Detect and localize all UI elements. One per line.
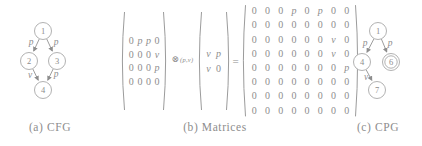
matrix-cell: 0: [274, 47, 287, 61]
matrix-row: 00000000: [248, 75, 354, 89]
caption-b: (b) Matrices: [156, 121, 274, 133]
matrix-cell: 0: [327, 4, 340, 18]
matrix-cell: 0: [261, 104, 274, 118]
matrix-cell: 0: [261, 18, 274, 32]
matrix-cell: p: [214, 46, 224, 61]
matrix-cfg-adjacency: 0pp0000v000p0000: [120, 11, 168, 111]
matrix-cell: 0: [261, 47, 274, 61]
matrix-cell: 0: [127, 75, 136, 89]
matrix-cell: 0: [274, 104, 287, 118]
matrix-row: 00000000: [248, 104, 354, 118]
matrix-cell: p: [144, 34, 153, 48]
matrix-cell: 0: [274, 89, 287, 103]
matrix-cells: 0pp0000v000p0000: [127, 11, 161, 111]
matrix-cell: 0: [274, 4, 287, 18]
matrix-cell: 0: [327, 18, 340, 32]
right-paren: [226, 11, 231, 111]
left-paren: [241, 4, 246, 118]
cpg-edge-1-6: [381, 39, 386, 52]
matrix-cell: 0: [127, 48, 136, 62]
matrix-row: 000v: [127, 48, 161, 62]
matrix-cell: v: [327, 33, 340, 47]
matrix-row: 0000000p: [248, 61, 354, 75]
matrix-cell: 0: [300, 61, 313, 75]
matrix-cell: 0: [261, 4, 274, 18]
cfg-graph: 1 2 3 4 p p v p: [12, 14, 84, 106]
equals-sign: =: [233, 55, 239, 67]
matrix-cell: v: [204, 61, 214, 76]
cfg-node-1-label: 1: [41, 26, 45, 36]
matrix-row: v0: [204, 61, 224, 76]
matrix-cell: 0: [144, 48, 153, 62]
matrix-cell: v: [204, 46, 214, 61]
matrix-cell: 0: [300, 47, 313, 61]
matrix-cell: 0: [261, 75, 274, 89]
matrix-cell: v: [153, 48, 162, 62]
matrix-cell: 0: [300, 18, 313, 32]
cfg-edge-2-4-label: v: [28, 70, 33, 80]
matrix-cell: 0: [287, 89, 300, 103]
matrix-row: 0000: [127, 75, 161, 89]
cfg-edge-1-3: [47, 39, 53, 51]
matrix-row: 000000v0: [248, 47, 354, 61]
matrix-cell: 0: [287, 33, 300, 47]
matrix-cell: 0: [274, 18, 287, 32]
matrix-label-pair: vpv0: [197, 11, 231, 111]
cfg-edge-3-4-label: p: [53, 69, 59, 79]
cpg-node-6-label: 6: [389, 57, 393, 67]
cfg-edge-2-4: [33, 69, 39, 80]
matrix-cell: 0: [261, 61, 274, 75]
matrix-cell: 0: [287, 18, 300, 32]
left-paren: [197, 11, 202, 111]
matrix-cell: 0: [314, 75, 327, 89]
matrix-equation: 0pp0000v000p0000 ⊗ (p,v) vpv0 = 000p0p00…: [119, 0, 361, 122]
matrix-cell: 0: [248, 4, 261, 18]
cpg-node-1-label: 1: [376, 26, 380, 36]
cfg-node-3-label: 3: [55, 56, 59, 66]
matrix-cell: 0: [248, 18, 261, 32]
matrix-cell: 0: [214, 61, 224, 76]
matrix-row: 000000v0: [248, 33, 354, 47]
matrix-cell: 0: [136, 48, 145, 62]
matrix-cell: 0: [136, 61, 145, 75]
cfg-edge-1-3-label: p: [53, 37, 59, 47]
matrix-row: 00000000: [248, 89, 354, 103]
matrix-cell: 0: [314, 104, 327, 118]
matrix-cell: 0: [248, 89, 261, 103]
matrix-cell: 0: [327, 89, 340, 103]
matrix-row: vp: [204, 46, 224, 61]
matrix-row: 000p: [127, 61, 161, 75]
cfg-edge-1-2: [34, 39, 40, 51]
matrix-cell: 0: [136, 75, 145, 89]
matrix-cell: 0: [327, 61, 340, 75]
matrix-row: 000p0p00: [248, 4, 354, 18]
matrix-cell: 0: [300, 33, 313, 47]
matrix-cell: 0: [127, 34, 136, 48]
caption-c: (c) CPG: [341, 121, 415, 133]
matrix-cell: 0: [261, 33, 274, 47]
right-paren: [163, 11, 168, 111]
matrix-cell: p: [136, 34, 145, 48]
matrix-cpg-result: 000p0p0000000000000000v0000000v00000000p…: [241, 4, 361, 118]
cpg-edge-1-4-label: p: [362, 38, 368, 48]
cfg-edge-3-4: [48, 69, 54, 80]
matrix-cell: 0: [248, 61, 261, 75]
matrix-cell: 0: [248, 33, 261, 47]
matrix-cell: 0: [287, 61, 300, 75]
matrix-cell: 0: [300, 4, 313, 18]
matrix-cell: 0: [144, 75, 153, 89]
matrix-cell: 0: [314, 89, 327, 103]
matrix-cell: 0: [287, 47, 300, 61]
matrix-cell: p: [287, 4, 300, 18]
caption-a: (a) CFG: [12, 121, 88, 133]
matrix-cell: 0: [261, 89, 274, 103]
matrix-cell: 0: [327, 75, 340, 89]
matrix-cell: 0: [153, 75, 162, 89]
matrix-cell: 0: [287, 104, 300, 118]
matrix-cells: 000p0p0000000000000000v0000000v00000000p…: [248, 4, 354, 118]
matrix-cell: 0: [314, 47, 327, 61]
matrix-cell: 0: [153, 34, 162, 48]
matrix-cells: vpv0: [204, 11, 224, 111]
cpg-node-7-label: 7: [375, 85, 379, 95]
matrix-cell: 0: [127, 61, 136, 75]
